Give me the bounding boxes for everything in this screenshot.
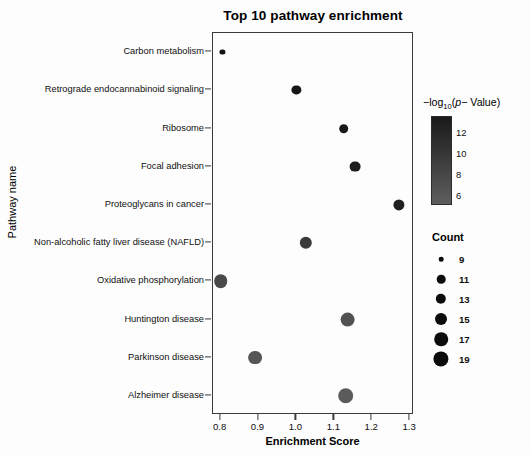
data-point-bubble <box>393 199 404 210</box>
colorbar-tick-label: 10 <box>456 147 466 158</box>
x-axis-tick-label: 1.2 <box>365 421 378 432</box>
size-legend-dot <box>437 275 446 284</box>
chart-title: Top 10 pathway enrichment <box>212 8 414 23</box>
size-legend-dot <box>436 294 446 304</box>
x-axis-tick-label: 1.3 <box>403 421 416 432</box>
x-axis-tick-mark <box>333 414 334 420</box>
size-legend: Count 91113151719 <box>423 231 523 369</box>
data-point-bubble <box>214 275 228 289</box>
x-axis-tick-label: 1.1 <box>327 421 340 432</box>
size-legend-dot <box>434 332 448 346</box>
x-axis-tick-label: 1.0 <box>289 421 302 432</box>
data-point-bubble <box>300 237 312 249</box>
size-legend-title: Count <box>432 231 523 243</box>
y-axis-tick-mark <box>205 356 211 357</box>
size-legend-label: 11 <box>459 274 469 285</box>
size-legend-row: 19 <box>423 349 523 369</box>
y-axis-tick-mark <box>205 242 211 243</box>
y-axis-tick-mark <box>205 203 211 204</box>
x-axis-tick-label: 0.8 <box>213 421 226 432</box>
x-axis-tick-mark <box>371 414 372 420</box>
x-axis-tick-mark <box>409 414 410 420</box>
data-point-bubble <box>350 161 361 172</box>
data-points-layer <box>213 33 412 413</box>
pathway-enrichment-bubble-chart: Top 10 pathway enrichment Pathway name C… <box>0 0 530 455</box>
size-legend-label: 9 <box>459 254 464 265</box>
size-legend-rows: 91113151719 <box>423 249 523 369</box>
data-point-bubble <box>248 351 262 365</box>
color-legend-title: −log10(p− Value) <box>423 96 500 111</box>
size-legend-dot <box>435 313 447 325</box>
x-axis-label: Enrichment Score <box>212 435 413 447</box>
x-axis-tick-mark <box>219 414 220 420</box>
size-legend-dot <box>433 351 448 366</box>
size-legend-row: 11 <box>423 269 523 289</box>
x-axis-tick-label: 0.9 <box>251 421 264 432</box>
x-axis-tick-mark <box>295 414 296 420</box>
size-legend-label: 13 <box>459 294 470 305</box>
plot-panel <box>212 32 413 414</box>
size-legend-row: 9 <box>423 249 523 269</box>
size-legend-label: 15 <box>459 314 470 325</box>
colorbar-tick-label: 12 <box>456 126 466 137</box>
data-point-bubble <box>338 388 354 404</box>
data-point-bubble <box>339 124 349 134</box>
y-axis-tick-mark <box>205 89 211 90</box>
size-legend-row: 17 <box>423 329 523 349</box>
size-legend-row: 15 <box>423 309 523 329</box>
size-legend-row: 13 <box>423 289 523 309</box>
x-axis-tick-mark <box>257 414 258 420</box>
size-legend-label: 19 <box>459 354 470 365</box>
x-axis-tick-labels: 0.80.91.01.11.21.3 <box>212 421 413 435</box>
colorbar-tick-labels: 121086 <box>456 116 486 205</box>
y-axis-tick-mark <box>205 394 211 395</box>
data-point-bubble <box>340 312 355 327</box>
data-point-bubble <box>220 50 225 55</box>
colorbar <box>431 116 452 205</box>
data-point-bubble <box>292 86 301 95</box>
y-axis-tick-mark <box>205 318 211 319</box>
y-axis-tick-marks <box>0 32 215 414</box>
colorbar-tick-label: 6 <box>456 189 461 200</box>
y-axis-tick-mark <box>205 280 211 281</box>
size-legend-dot <box>439 257 444 262</box>
y-axis-tick-mark <box>205 165 211 166</box>
y-axis-tick-mark <box>205 127 211 128</box>
y-axis-tick-mark <box>205 51 211 52</box>
size-legend-label: 17 <box>459 334 470 345</box>
colorbar-tick-label: 8 <box>456 168 461 179</box>
